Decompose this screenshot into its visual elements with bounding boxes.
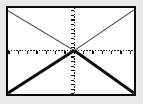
plot-area xyxy=(8,8,134,94)
series-line xyxy=(8,11,74,51)
figure-root xyxy=(0,0,143,104)
data-series xyxy=(8,10,134,93)
coordinate-plot xyxy=(8,8,134,94)
series-line xyxy=(74,51,134,94)
plot-frame xyxy=(6,6,136,96)
series-line xyxy=(74,10,134,51)
series-line xyxy=(8,51,74,94)
